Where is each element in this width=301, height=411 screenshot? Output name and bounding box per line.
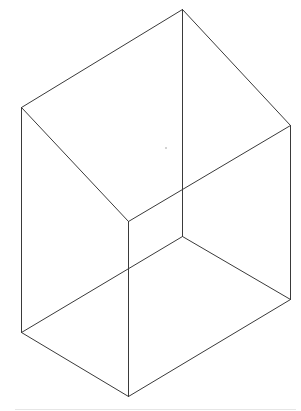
bottom-left-back-edge [22,237,183,333]
bottom-left-front-edge [22,333,129,397]
top-left-front-edge [22,108,129,222]
stray-dot-artifact [165,147,167,149]
bottom-right-front-edge [129,300,291,397]
box-wireframe-diagram [0,0,301,411]
top-left-back-edge [22,10,183,108]
top-right-front-edge [129,126,291,222]
top-right-back-edge [183,10,291,126]
bottom-right-back-edge [183,237,291,300]
box-edges [22,10,291,397]
